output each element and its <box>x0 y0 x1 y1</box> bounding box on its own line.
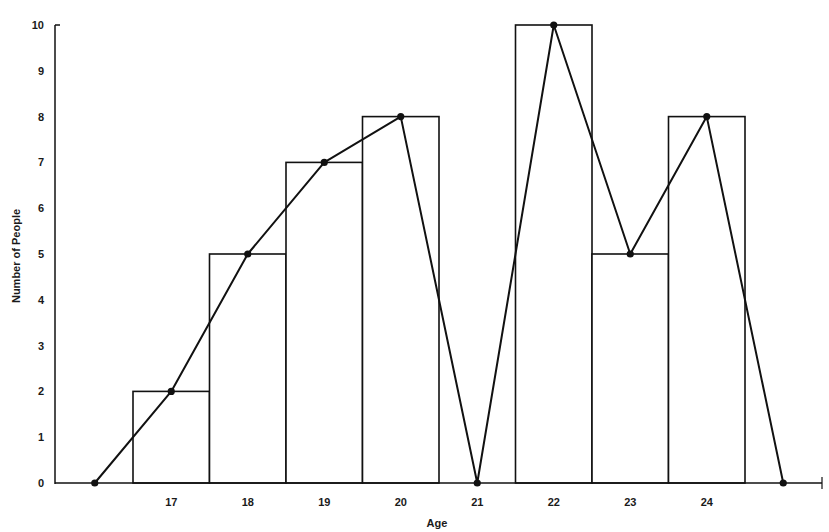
polygon-point-marker <box>550 21 557 28</box>
polygon-point-marker <box>474 479 481 486</box>
histogram-bar-17 <box>133 391 210 483</box>
polygon-point-marker <box>91 479 98 486</box>
polygon-point-marker <box>397 113 404 120</box>
x-tick-label: 23 <box>624 496 636 508</box>
y-tick-label: 7 <box>38 156 44 168</box>
y-tick-label: 10 <box>32 19 44 31</box>
x-tick-label: 20 <box>395 496 407 508</box>
histogram-bars <box>133 25 745 483</box>
histogram-bar-18 <box>210 254 287 483</box>
y-tick-label: 3 <box>38 340 44 352</box>
histogram-bar-20 <box>363 117 440 483</box>
histogram-chart: 012345678910 1718192021222324 Age Number… <box>0 0 829 532</box>
polygon-point-marker <box>244 250 251 257</box>
polygon-point-marker <box>627 250 634 257</box>
y-tick-label: 1 <box>38 431 44 443</box>
x-tick-labels: 1718192021222324 <box>165 496 714 508</box>
y-tick-labels: 012345678910 <box>32 19 45 489</box>
y-tick-label: 4 <box>38 294 45 306</box>
x-tick-label: 21 <box>471 496 483 508</box>
histogram-bar-24 <box>669 117 746 483</box>
histogram-bar-22 <box>516 25 593 483</box>
y-tick-label: 2 <box>38 385 44 397</box>
x-tick-label: 24 <box>701 496 714 508</box>
y-axis-title: Number of People <box>10 209 22 303</box>
x-tick-label: 22 <box>548 496 560 508</box>
x-tick-label: 18 <box>242 496 254 508</box>
x-tick-label: 19 <box>318 496 330 508</box>
y-tick-label: 8 <box>38 111 44 123</box>
y-tick-label: 5 <box>38 248 44 260</box>
histogram-bar-23 <box>592 254 669 483</box>
polygon-point-marker <box>703 113 710 120</box>
x-tick-label: 17 <box>165 496 177 508</box>
histogram-bar-19 <box>286 162 363 483</box>
y-tick-label: 6 <box>38 202 44 214</box>
polygon-point-marker <box>168 388 175 395</box>
polygon-point-marker <box>321 159 328 166</box>
polygon-point-marker <box>780 479 787 486</box>
x-axis-title: Age <box>427 517 448 529</box>
y-tick-label: 0 <box>38 477 44 489</box>
y-tick-label: 9 <box>38 65 44 77</box>
